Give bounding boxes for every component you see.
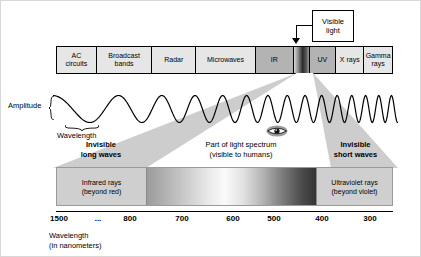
eye-icon <box>266 125 288 137</box>
band-label-line-1: Radar <box>164 56 183 65</box>
band-label-line-1: X rays <box>340 56 360 65</box>
visible-light-callout: Visible light <box>312 10 354 42</box>
electromagnetic-spectrum-diagram: Visible light ACcircuitsBroadcastbandsRa… <box>0 0 421 257</box>
band-label-line-1: IR <box>271 56 278 65</box>
ultraviolet-line-2: (beyond violet) <box>331 187 377 196</box>
scale-tick-700: 700 <box>175 214 188 223</box>
scale-tick-800: 800 <box>123 214 136 223</box>
region-left-line-2: long waves <box>56 150 146 160</box>
band-label-line-1: Microwaves <box>207 56 244 65</box>
band-label-line-2: rays <box>366 60 391 69</box>
scale-caption: Wavelength (in nanometers) <box>49 231 102 250</box>
spectrum-band-ir: IR <box>256 47 294 73</box>
spectrum-band-x-rays: X rays <box>336 47 364 73</box>
region-right-line-2: short waves <box>313 150 398 160</box>
visible-spectrum-gradient <box>147 168 316 205</box>
scale-tick-dotsdotsdots: ... <box>95 214 102 223</box>
ultraviolet-section: Ultraviolet rays (beyond violet) <box>316 168 392 205</box>
scale-axis-line <box>56 211 393 212</box>
band-label-line-1: AC <box>65 52 87 61</box>
band-label-line-2: circuits <box>65 60 87 69</box>
scale-tick-300: 300 <box>363 214 376 223</box>
scale-tick-500: 500 <box>267 214 280 223</box>
region-mid-line-1: Part of light spectrum <box>161 140 321 150</box>
region-caption-middle: Part of light spectrum (visible to human… <box>161 140 321 159</box>
spectrum-band-broadcast: Broadcastbands <box>97 47 153 73</box>
region-caption-right: Invisible short waves <box>313 140 398 159</box>
wavelength-label: Wavelength <box>57 131 96 140</box>
region-right-line-1: Invisible <box>313 140 398 150</box>
scale-caption-line-1: Wavelength <box>49 231 102 241</box>
down-arrow-icon <box>292 38 300 44</box>
callout-line-2: light <box>326 26 340 35</box>
callout-leader-line-horizontal <box>296 25 313 26</box>
band-label-line-1: UV <box>318 56 328 65</box>
scale-tick-400: 400 <box>315 214 328 223</box>
band-label-line-2: bands <box>108 60 140 69</box>
spectrum-band-radar: Radar <box>152 47 196 73</box>
scale-tick-1500: 1500 <box>50 214 68 223</box>
region-left-line-1: Invisible <box>56 140 146 150</box>
band-label-line-1: Gamma <box>366 52 391 61</box>
spectrum-band-visible <box>294 47 310 73</box>
region-caption-left: Invisible long waves <box>56 140 146 159</box>
scale-tick-600: 600 <box>226 214 239 223</box>
scale-caption-line-2: (in nanometers) <box>49 241 102 251</box>
wave-curve <box>53 89 398 129</box>
ultraviolet-line-1: Ultraviolet rays <box>331 178 377 187</box>
callout-line-1: Visible <box>322 17 344 26</box>
spectrum-detail-panel: Infrared rays (beyond red) Ultraviolet r… <box>56 167 393 206</box>
spectrum-band-gamma-rays: Gammarays <box>364 47 392 73</box>
spectrum-band-microwaves: Microwaves <box>196 47 256 73</box>
spectrum-band-ac-circuits: ACcircuits <box>57 47 97 73</box>
band-label-line-1: Broadcast <box>108 52 140 61</box>
amplitude-label: Amplitude <box>8 101 41 110</box>
spectrum-band-uv: UV <box>310 47 337 73</box>
spectrum-band-bar: ACcircuitsBroadcastbandsRadarMicrowavesI… <box>56 46 393 74</box>
infrared-line-2: (beyond red) <box>82 187 122 196</box>
infrared-line-1: Infrared rays <box>82 178 122 187</box>
infrared-section: Infrared rays (beyond red) <box>57 168 147 205</box>
region-mid-line-2: (visible to humans) <box>161 150 321 160</box>
